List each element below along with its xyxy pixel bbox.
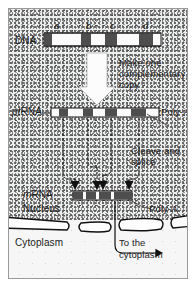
step1-line2: complementary	[119, 68, 185, 79]
exon-label-b: b	[86, 20, 91, 31]
mrna-label-rest: RNA	[31, 189, 52, 200]
step2-line2: splice	[131, 156, 156, 167]
exon-label-c: c	[110, 20, 115, 31]
step3-line1: To the	[119, 237, 145, 248]
ptrna-label-italic: pt	[12, 106, 21, 117]
splice-arrowheads	[71, 181, 134, 190]
step1-line1: Make one	[119, 57, 162, 68]
figure-frame: DNA a b c d Make one complementary copy …	[8, 8, 188, 279]
transcription-arrow	[79, 53, 115, 105]
exon-label-d: d	[143, 20, 148, 31]
poly-a-bottom-label: Poly-A	[149, 203, 178, 214]
step1-line3: copy	[119, 79, 139, 90]
splice-routing-lines	[63, 119, 139, 179]
cytoplasm-label: Cytoplasm	[15, 237, 63, 248]
ptrna-label: ptRNA	[12, 106, 42, 117]
nucleus-label: Nucleus	[23, 203, 60, 214]
poly-a-top-label: Poly-A	[161, 106, 188, 117]
figure-root: DNA a b c d Make one complementary copy …	[0, 0, 194, 285]
ptrna-label-rest: RNA	[21, 106, 42, 117]
nuclear-membrane	[8, 215, 188, 232]
splice-arrow-stems	[75, 167, 129, 183]
exon-label-a: a	[54, 20, 59, 31]
step3-line2: cytoplasm	[119, 249, 163, 260]
mrna-label: mRNA	[23, 189, 53, 200]
dna-label: DNA	[15, 35, 36, 46]
step2-line1: Cleave and	[131, 145, 180, 156]
mrna-strand	[73, 191, 132, 200]
ptrna-strand	[42, 108, 159, 117]
dna-strand	[44, 33, 161, 46]
poly-a-bottom-leader	[128, 199, 151, 209]
